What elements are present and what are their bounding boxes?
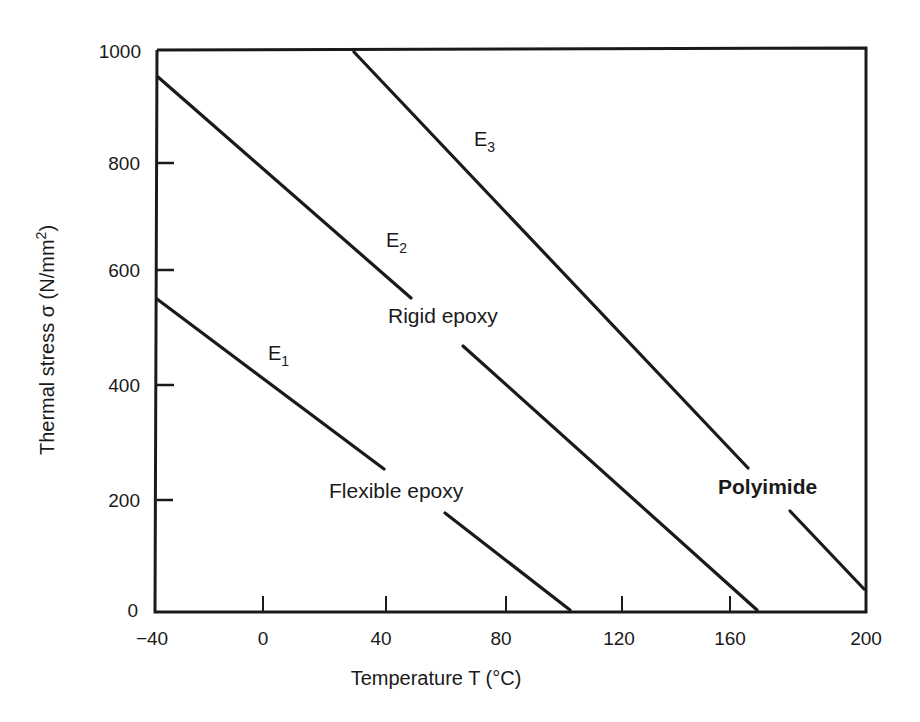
x-tick-labels: −40 0 40 80 120 160 200 (136, 628, 882, 649)
x-tick-label: 40 (370, 628, 391, 649)
y-tick-label: 200 (108, 490, 140, 511)
y-axis-ticks (157, 163, 174, 500)
y-tick-labels: 1000 800 600 400 200 0 (99, 41, 141, 621)
x-axis-title: Temperature T (°C) (351, 667, 522, 689)
x-tick-label: 80 (490, 628, 511, 649)
y-axis-title-superscript: 2 (33, 231, 49, 239)
thermal-stress-chart: 1000 800 600 400 200 0 −40 0 40 80 120 1… (0, 0, 920, 722)
y-axis-title-end: ) (36, 225, 58, 232)
y-tick-label: 600 (108, 260, 140, 281)
x-tick-label: 120 (603, 628, 635, 649)
series-e2-rigid-epoxy (158, 77, 757, 610)
curve-label-e2: E2 (386, 229, 407, 256)
x-tick-label: 200 (850, 628, 882, 649)
curve-label-e1: E1 (268, 342, 289, 369)
x-tick-label: 0 (258, 628, 269, 649)
x-tick-label: 160 (714, 628, 746, 649)
y-axis-title-main: Thermal stress σ (N/mm (36, 239, 58, 455)
label-rigid-epoxy: Rigid epoxy (388, 304, 498, 327)
curve-label-e3: E3 (474, 128, 495, 155)
svg-text:Thermal stress σ (N/mm2): Thermal stress σ (N/mm2) (33, 225, 58, 455)
plot-frame (155, 48, 866, 612)
x-tick-label: −40 (136, 628, 168, 649)
y-tick-label: 1000 (99, 41, 141, 62)
x-axis-ticks (263, 596, 730, 612)
series-e1-flexible-epoxy (157, 299, 570, 610)
y-tick-label: 0 (127, 600, 138, 621)
label-polyimide: Polyimide (718, 475, 817, 498)
label-flexible-epoxy: Flexible epoxy (329, 479, 464, 502)
y-tick-label: 400 (108, 375, 140, 396)
y-axis-title: Thermal stress σ (N/mm2) (33, 225, 58, 455)
y-tick-label: 800 (108, 153, 140, 174)
